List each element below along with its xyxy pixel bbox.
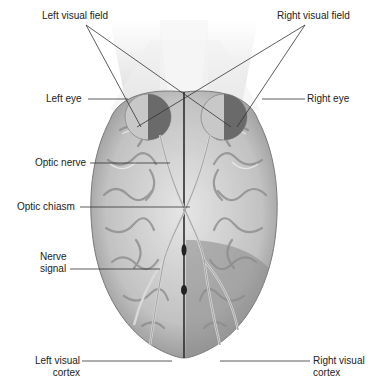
label-nerve-signal-line1: Nerve [40, 251, 66, 263]
label-optic-nerve: Optic nerve [35, 157, 86, 169]
left-eye-graphic [125, 94, 171, 140]
label-optic-chiasm: Optic chiasm [17, 201, 75, 213]
label-left-visual-field: Left visual field [42, 10, 108, 22]
label-right-visual-cortex: Right visual cortex [313, 355, 365, 379]
label-right-eye: Right eye [307, 93, 349, 105]
label-left-eye: Left eye [46, 93, 82, 105]
label-left-visual-cortex: Left visual cortex [20, 355, 80, 379]
label-left-visual-cortex-line2: cortex [20, 367, 80, 379]
label-left-visual-cortex-line1: Left visual [20, 355, 80, 367]
label-nerve-signal: Nerve signal [40, 251, 66, 275]
right-eye-graphic [201, 94, 247, 140]
label-right-visual-cortex-line2: cortex [313, 367, 365, 379]
label-right-visual-field: Right visual field [277, 10, 350, 22]
brain [91, 91, 280, 370]
visual-pathway-diagram: Left visual field Right visual field Lef… [0, 0, 368, 387]
brain-illustration [0, 0, 368, 387]
label-right-visual-cortex-line1: Right visual [313, 355, 365, 367]
label-nerve-signal-line2: signal [40, 263, 66, 275]
